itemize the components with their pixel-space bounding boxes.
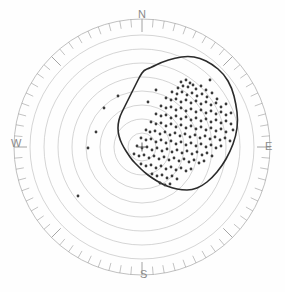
compass-label-east: E — [265, 140, 273, 152]
contour-polygon — [118, 57, 238, 191]
compass-label-north: N — [138, 8, 146, 20]
center-cross-marker — [138, 143, 147, 152]
polar-plot-figure: N E S W — [0, 0, 285, 292]
compass-label-south: S — [140, 268, 148, 280]
compass-label-west: W — [11, 137, 22, 149]
polar-plot-canvas — [0, 0, 285, 292]
